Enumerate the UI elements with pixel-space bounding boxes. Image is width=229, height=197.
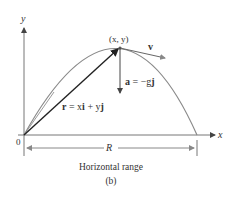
subcaption: (b) [105,176,116,187]
velocity-label: v [148,41,153,52]
acceleration-label: a = −gj [125,76,155,87]
trajectory-curve [24,49,197,136]
caption: Horizontal range [79,162,143,172]
position-label: r = xi + yj [62,101,104,112]
point-label: (x, y) [109,34,129,44]
velocity-vector [120,48,165,58]
y-axis-label: y [20,13,26,24]
projectile-diagram: y x 0 (x, y) v a = −gj r = xi + yj R Hor… [0,0,229,197]
x-axis-label: x [217,129,223,140]
position-vector [24,49,118,135]
origin-label: 0 [16,137,21,147]
initial-direction-line [24,92,54,135]
range-label: R [105,142,112,153]
